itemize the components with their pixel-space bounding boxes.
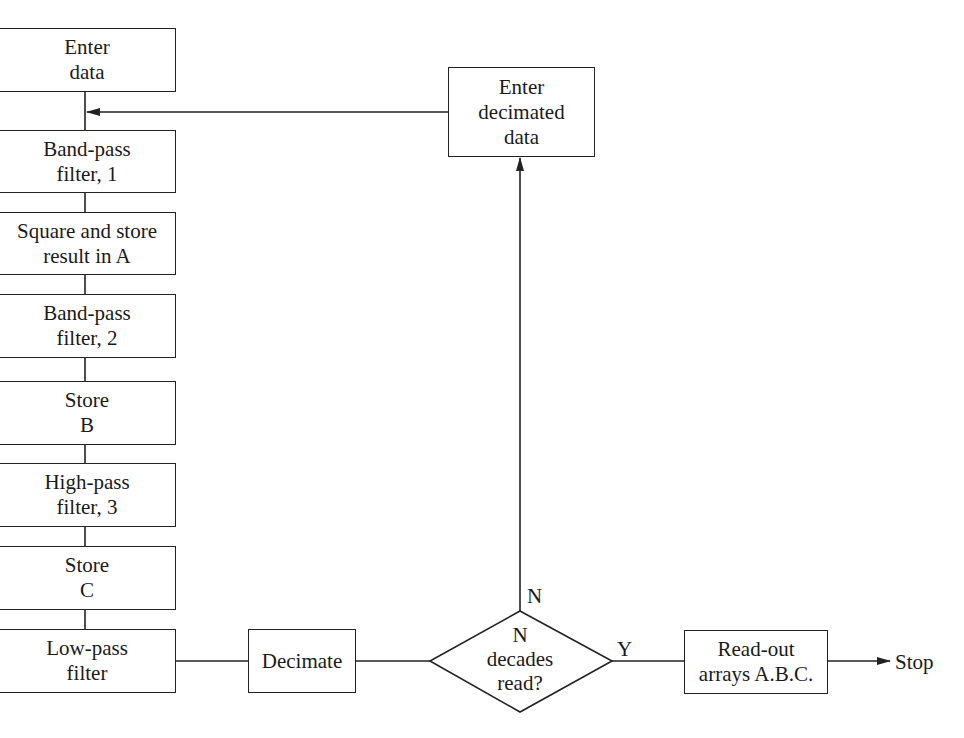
- store-b-box: Store B: [0, 381, 176, 445]
- box-line: Low-pass: [46, 636, 128, 661]
- band-pass-filter-1-box: Band-pass filter, 1: [0, 130, 176, 193]
- box-line: C: [80, 578, 94, 603]
- enter-data-box: Enter data: [0, 28, 176, 92]
- box-line: High-pass: [44, 470, 129, 495]
- box-line: Enter: [499, 75, 544, 100]
- box-line: Enter: [64, 35, 109, 60]
- decision-line: N: [460, 623, 580, 647]
- box-line: Band-pass: [43, 301, 131, 326]
- box-line: Square and store: [17, 219, 157, 244]
- stop-label: Stop: [895, 650, 934, 674]
- box-line: arrays A.B.C.: [699, 662, 813, 687]
- box-line: filter, 2: [57, 326, 118, 351]
- low-pass-filter-box: Low-pass filter: [0, 629, 176, 693]
- no-branch-label: N: [527, 584, 542, 608]
- box-line: B: [80, 413, 94, 438]
- box-line: result in A: [43, 244, 131, 269]
- decision-text: N decades read?: [460, 623, 580, 695]
- box-line: data: [504, 125, 539, 150]
- box-line: decimated: [478, 100, 564, 125]
- box-line: Read-out: [718, 637, 795, 662]
- box-line: Store: [65, 553, 109, 578]
- yes-branch-label: Y: [617, 637, 632, 661]
- box-line: Store: [65, 388, 109, 413]
- box-line: data: [70, 60, 105, 85]
- box-line: filter: [67, 661, 108, 686]
- high-pass-filter-3-box: High-pass filter, 3: [0, 463, 176, 527]
- decimate-box: Decimate: [248, 629, 356, 693]
- decision-line: read?: [460, 671, 580, 695]
- box-line: filter, 1: [57, 162, 118, 187]
- band-pass-filter-2-box: Band-pass filter, 2: [0, 294, 176, 358]
- box-line: filter, 3: [57, 495, 118, 520]
- store-c-box: Store C: [0, 546, 176, 610]
- box-line: Band-pass: [43, 137, 131, 162]
- square-store-a-box: Square and store result in A: [0, 212, 176, 275]
- decision-line: decades: [460, 647, 580, 671]
- box-line: Decimate: [262, 649, 342, 674]
- enter-decimated-data-box: Enter decimated data: [448, 67, 595, 157]
- readout-arrays-box: Read-out arrays A.B.C.: [684, 630, 828, 694]
